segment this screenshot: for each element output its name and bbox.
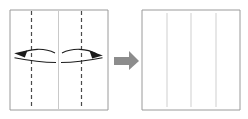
before-fold-panel [10,10,108,110]
transition-arrow-head-icon [129,51,139,70]
fold-diagram-root [0,0,248,119]
fold-diagram-svg [0,0,248,119]
transition-arrow [114,51,139,70]
after-fold-panel [142,10,240,110]
transition-arrow-shaft [114,57,129,65]
